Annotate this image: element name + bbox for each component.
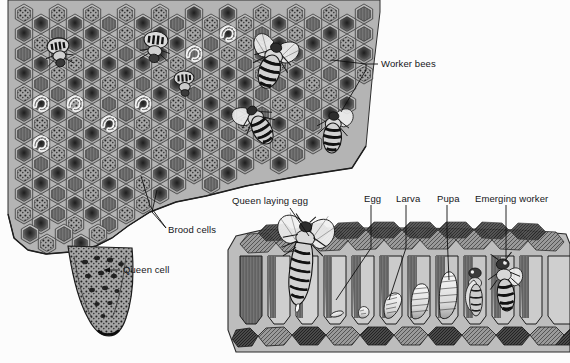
upper-comb-artwork — [8, 0, 380, 254]
label-queen-cell: Queen cell — [123, 265, 169, 275]
label-pupa: Pupa — [437, 194, 460, 204]
label-egg: Egg — [364, 194, 381, 204]
label-queen-laying-egg: Queen laying egg — [232, 196, 308, 206]
label-emerging-worker: Emerging worker — [475, 194, 548, 204]
lower-comb-artwork — [228, 206, 570, 352]
illustration — [0, 0, 570, 363]
label-worker-bees: Worker bees — [381, 59, 436, 69]
label-larva: Larva — [396, 194, 420, 204]
queen-cell-artwork — [68, 246, 133, 336]
figure-canvas: Worker bees Brood cells Queen cell Queen… — [0, 0, 570, 363]
label-brood-cells: Brood cells — [168, 225, 216, 235]
